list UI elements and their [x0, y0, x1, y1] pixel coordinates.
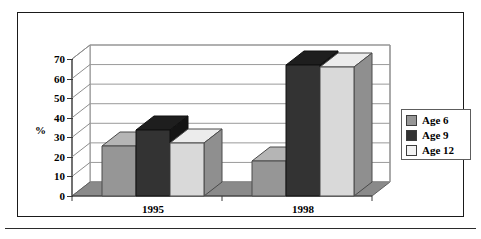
legend-label-age9: Age 9 — [422, 130, 449, 141]
bar-1998-age12 — [320, 67, 354, 196]
y-tick-label-60: 60 — [39, 74, 65, 84]
y-tickmark-0 — [67, 196, 73, 197]
y-tick-label-30: 30 — [39, 132, 65, 142]
page-bottom-rule — [5, 228, 476, 229]
scanned-page: % 70 60 50 40 30 20 10 0 — [0, 0, 481, 239]
y-tick-label-70: 70 — [39, 54, 65, 64]
legend-swatch-age6 — [406, 115, 417, 126]
bar-1995-age9 — [136, 130, 170, 197]
chart-legend: Age 6 Age 9 Age 12 — [401, 109, 471, 160]
y-tickmark-30 — [67, 137, 73, 138]
y-tickmark-20 — [67, 157, 73, 158]
y-tickmark-70 — [67, 59, 73, 60]
x-category-label-1998: 1998 — [273, 203, 333, 215]
bar-1998-age6 — [252, 161, 286, 196]
legend-swatch-age9 — [406, 130, 417, 141]
y-tickmark-10 — [67, 176, 73, 177]
legend-item-age6: Age 6 — [406, 113, 466, 128]
legend-swatch-age12 — [406, 145, 417, 156]
legend-label-age6: Age 6 — [422, 115, 449, 126]
chart-3d-planes — [17, 12, 464, 217]
y-tick-label-0: 0 — [39, 191, 65, 201]
x-category-label-1995: 1995 — [123, 203, 183, 215]
y-tickmark-40 — [67, 118, 73, 119]
y-tickmark-60 — [67, 79, 73, 80]
y-tickmark-50 — [67, 98, 73, 99]
legend-item-age9: Age 9 — [406, 128, 466, 143]
y-tick-label-20: 20 — [39, 152, 65, 162]
legend-item-age12: Age 12 — [406, 143, 466, 158]
y-tick-label-40: 40 — [39, 113, 65, 123]
legend-label-age12: Age 12 — [422, 145, 454, 156]
y-tick-label-10: 10 — [39, 171, 65, 181]
bar-1995-age6 — [102, 146, 136, 196]
bar-1998-age9 — [286, 65, 320, 196]
y-tick-label-50: 50 — [39, 93, 65, 103]
bar-1995-age12 — [170, 143, 204, 196]
bar-chart: % 70 60 50 40 30 20 10 0 — [17, 12, 464, 217]
